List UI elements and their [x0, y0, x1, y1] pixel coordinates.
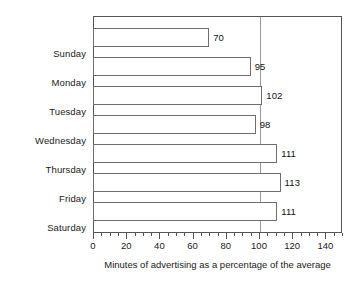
x-axis-tick-label: 20	[121, 240, 132, 251]
x-axis-minor-tick	[334, 233, 335, 236]
x-axis-minor-tick	[176, 233, 177, 236]
x-axis-minor-tick	[143, 233, 144, 236]
x-axis-minor-tick	[118, 233, 119, 236]
x-axis-tick-label: 140	[317, 240, 333, 251]
bar-value-label: 113	[285, 178, 300, 188]
x-axis-tick-label: 80	[221, 240, 232, 251]
x-axis-tick-label: 60	[187, 240, 198, 251]
bar	[93, 115, 256, 134]
x-axis-minor-tick	[309, 233, 310, 236]
bar-value-label: 70	[213, 33, 224, 43]
x-axis-minor-tick	[242, 233, 243, 236]
x-axis-tick-label: 120	[284, 240, 300, 251]
x-axis-minor-tick	[251, 233, 252, 236]
x-axis-minor-tick	[218, 233, 219, 236]
x-axis-minor-tick	[168, 233, 169, 236]
x-axis-minor-tick	[209, 233, 210, 236]
category-axis-labels: Sunday Monday Tuesday Wednesday Thursday…	[0, 16, 86, 233]
category-label: Friday	[0, 194, 86, 204]
x-axis-title: Minutes of advertising as a percentage o…	[93, 259, 342, 271]
x-axis-major-tick	[259, 233, 260, 239]
x-axis-major-tick	[292, 233, 293, 239]
x-axis-major-tick	[93, 233, 94, 239]
category-label: Tuesday	[0, 107, 86, 117]
category-label: Thursday	[0, 165, 86, 175]
bar-value-label: 111	[281, 149, 296, 159]
x-axis-minor-tick	[267, 233, 268, 236]
x-axis-tick-label: 40	[154, 240, 165, 251]
bar	[93, 28, 209, 47]
x-axis-minor-tick	[135, 233, 136, 236]
x-axis-minor-tick	[317, 233, 318, 236]
x-axis-tick-label: 0	[90, 240, 95, 251]
x-axis-minor-tick	[201, 233, 202, 236]
bar	[93, 173, 281, 192]
x-axis-minor-tick	[184, 233, 185, 236]
bar-value-label: 102	[266, 91, 282, 101]
bar-value-label: 95	[255, 62, 266, 72]
x-axis-minor-tick	[151, 233, 152, 236]
x-axis-major-tick	[159, 233, 160, 239]
x-axis-major-tick	[226, 233, 227, 239]
x-axis-minor-tick	[301, 233, 302, 236]
x-axis-tick-label: 100	[251, 240, 267, 251]
x-axis-major-tick	[325, 233, 326, 239]
category-label: Saturday	[0, 223, 86, 233]
category-label: Sunday	[0, 49, 86, 59]
bar-chart-figure: Sunday Monday Tuesday Wednesday Thursday…	[0, 0, 359, 291]
bar	[93, 202, 277, 221]
x-axis-minor-tick	[234, 233, 235, 236]
x-axis-minor-tick	[110, 233, 111, 236]
x-axis-major-tick	[193, 233, 194, 239]
x-axis-minor-tick	[342, 233, 343, 236]
bar	[93, 57, 251, 76]
category-label: Wednesday	[0, 136, 86, 146]
bar-value-label: 98	[260, 120, 271, 130]
bar-value-label: 111	[281, 207, 296, 217]
bar	[93, 86, 262, 105]
bars-layer: 709510298111113111	[93, 16, 342, 233]
x-axis-minor-tick	[101, 233, 102, 236]
bar	[93, 144, 277, 163]
x-axis-major-tick	[126, 233, 127, 239]
x-axis-minor-tick	[276, 233, 277, 236]
category-label: Monday	[0, 78, 86, 88]
x-axis-minor-tick	[284, 233, 285, 236]
x-axis-tick-labels: 020406080100120140	[93, 240, 342, 254]
